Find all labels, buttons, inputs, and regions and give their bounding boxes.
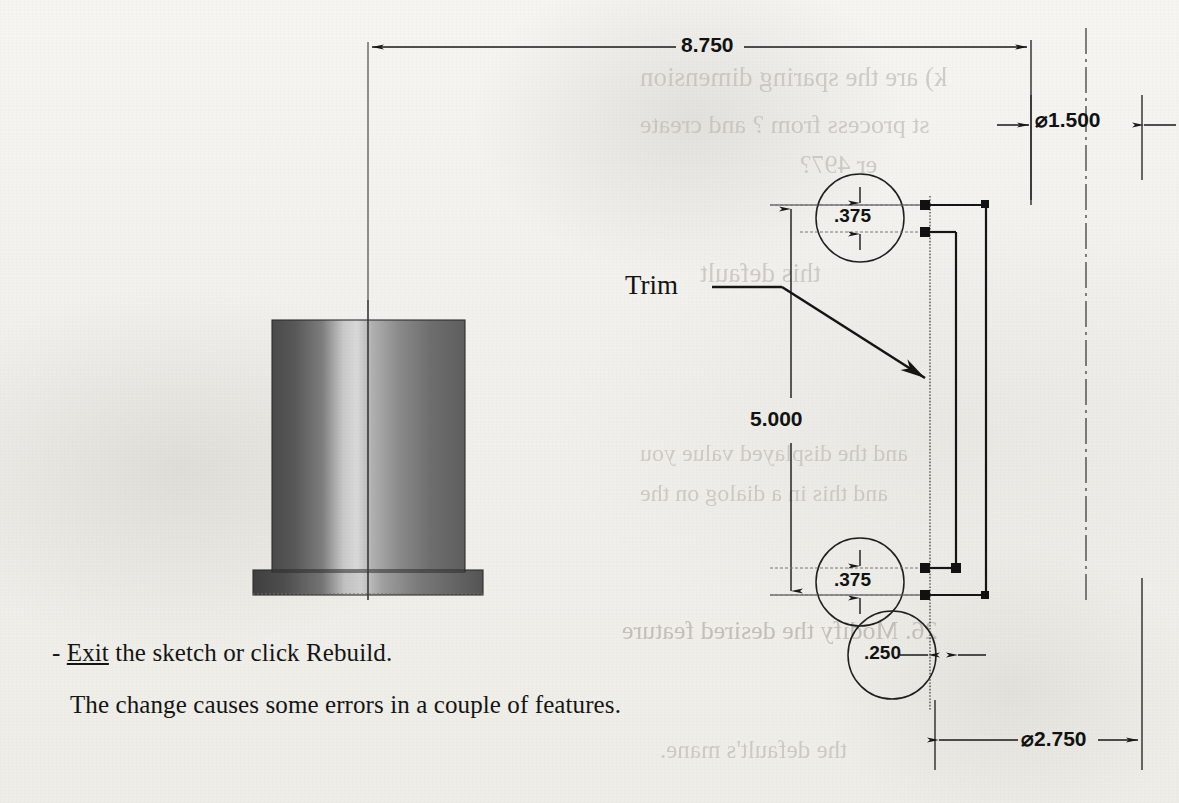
diameter-symbol-icon: ⌀ bbox=[1021, 727, 1034, 750]
dimension-label-diameter-2750: ⌀2.750 bbox=[1021, 727, 1087, 751]
detail-label-upper-375: .375 bbox=[834, 205, 871, 227]
instruction-line-1-rest: the sketch or click Rebuild. bbox=[109, 639, 392, 666]
instruction-line-2: The change causes some errors in a coupl… bbox=[70, 691, 621, 719]
dimension-value: 2.750 bbox=[1034, 727, 1087, 750]
dimension-value: 1.500 bbox=[1048, 108, 1101, 131]
dimension-label-8750: 8.750 bbox=[681, 33, 734, 57]
exit-link[interactable]: Exit bbox=[67, 639, 109, 666]
detail-label-250: .250 bbox=[864, 642, 901, 664]
bullet-dash: - bbox=[52, 639, 60, 666]
technical-drawing bbox=[0, 0, 1179, 803]
diameter-symbol-icon: ⌀ bbox=[1035, 108, 1048, 131]
dimension-label-5000: 5.000 bbox=[750, 407, 803, 431]
detail-label-lower-375: .375 bbox=[834, 569, 871, 591]
trim-label: Trim bbox=[625, 270, 678, 301]
trim-leader bbox=[712, 287, 925, 378]
instruction-line-1: - Exit the sketch or click Rebuild. bbox=[52, 639, 392, 667]
dimension-label-diameter-1500: ⌀1.500 bbox=[1035, 108, 1101, 132]
dimension-8750 bbox=[368, 40, 1031, 600]
dimension-5000 bbox=[770, 205, 930, 595]
